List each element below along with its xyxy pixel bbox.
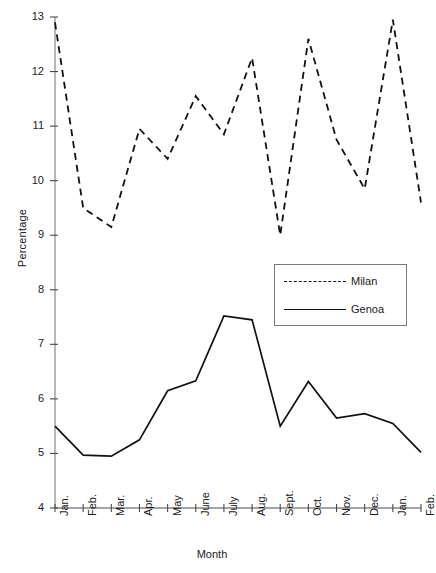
x-tick-label-0: Jan. (59, 495, 70, 516)
x-axis-title: Month (152, 548, 272, 560)
legend-line-sample-dashed (284, 281, 346, 282)
y-axis-ticks (50, 17, 58, 508)
x-tick-label-2: Mar. (115, 495, 126, 516)
x-tick-label-10: Nov. (341, 494, 352, 516)
y-tick-label-6: 6 (18, 393, 44, 404)
data-series-layer (55, 20, 421, 456)
x-tick-label-1: Feb. (87, 494, 98, 516)
chart-legend: Milan Genoa (274, 264, 407, 326)
x-tick-label-5: June (200, 492, 211, 516)
x-tick-label-3: Apr. (143, 496, 154, 516)
y-tick-label-4: 4 (18, 502, 44, 513)
legend-line-sample-solid (284, 309, 346, 310)
legend-label-genoa: Genoa (351, 302, 384, 316)
x-tick-label-7: Aug. (256, 493, 267, 516)
series-line-milan (55, 20, 421, 235)
y-tick-label-10: 10 (18, 175, 44, 186)
y-tick-label-13: 13 (18, 11, 44, 22)
x-tick-label-9: Oct. (312, 496, 323, 516)
x-tick-label-11: Dec. (369, 493, 380, 516)
x-tick-label-4: May (172, 495, 183, 516)
y-axis-title: Percentage (16, 188, 28, 288)
x-tick-label-6: July (228, 496, 239, 516)
legend-entry-genoa: Genoa (275, 299, 408, 321)
y-tick-label-7: 7 (18, 338, 44, 349)
x-tick-label-8: Sept. (284, 490, 295, 516)
y-tick-label-11: 11 (18, 120, 44, 131)
x-tick-label-12: Jan. (397, 495, 408, 516)
y-tick-label-12: 12 (18, 66, 44, 77)
x-tick-label-13: Feb. (425, 494, 436, 516)
y-tick-label-5: 5 (18, 447, 44, 458)
legend-label-milan: Milan (351, 274, 377, 288)
series-line-genoa (55, 316, 421, 456)
axis-lines (55, 17, 421, 508)
legend-entry-milan: Milan (275, 271, 408, 293)
